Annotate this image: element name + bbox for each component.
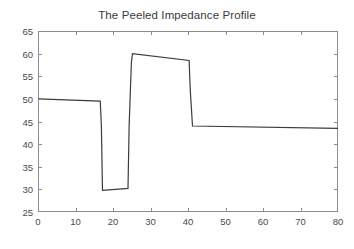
data-series-svg [38,31,338,212]
y-tick-mark [38,167,42,168]
x-tick-label: 20 [95,216,131,227]
x-tick-mark-top [151,31,152,35]
y-tick-mark-right [334,144,338,145]
chart-title: The Peeled Impedance Profile [0,9,354,21]
y-axis-labels: 253035404550556065 [0,0,33,249]
x-tick-label: 0 [20,216,56,227]
y-tick-mark [38,189,42,190]
x-tick-mark-top [188,31,189,35]
y-tick-mark-right [334,122,338,123]
x-tick-mark [263,208,264,212]
x-tick-mark [113,208,114,212]
y-tick-mark [38,54,42,55]
x-tick-label: 50 [208,216,244,227]
y-tick-label: 30 [3,184,33,195]
y-tick-mark-right [334,189,338,190]
y-tick-mark [38,76,42,77]
x-tick-mark [301,208,302,212]
x-tick-mark-top [301,31,302,35]
x-tick-label: 60 [245,216,281,227]
x-tick-mark-top [226,31,227,35]
y-tick-mark [38,144,42,145]
y-tick-label: 35 [3,161,33,172]
y-tick-label: 55 [3,71,33,82]
y-tick-mark [38,122,42,123]
x-tick-mark [151,208,152,212]
y-tick-mark-right [334,167,338,168]
y-tick-label: 50 [3,93,33,104]
x-tick-mark-top [76,31,77,35]
x-tick-label: 10 [58,216,94,227]
y-tick-mark-right [334,76,338,77]
x-tick-mark [226,208,227,212]
y-tick-label: 60 [3,48,33,59]
x-tick-mark-top [263,31,264,35]
y-tick-label: 45 [3,116,33,127]
y-tick-mark-right [334,54,338,55]
x-tick-label: 30 [133,216,169,227]
y-tick-mark [38,99,42,100]
x-axis-labels: 01020304050607080 [0,216,354,236]
chart-figure: The Peeled Impedance Profile 25303540455… [0,0,354,249]
y-tick-label: 40 [3,139,33,150]
y-tick-mark-right [334,99,338,100]
x-tick-mark [76,208,77,212]
x-tick-label: 70 [283,216,319,227]
x-tick-mark [188,208,189,212]
x-tick-label: 40 [170,216,206,227]
x-tick-mark-top [113,31,114,35]
x-tick-label: 80 [320,216,354,227]
y-tick-label: 65 [3,26,33,37]
impedance-line [38,54,338,191]
